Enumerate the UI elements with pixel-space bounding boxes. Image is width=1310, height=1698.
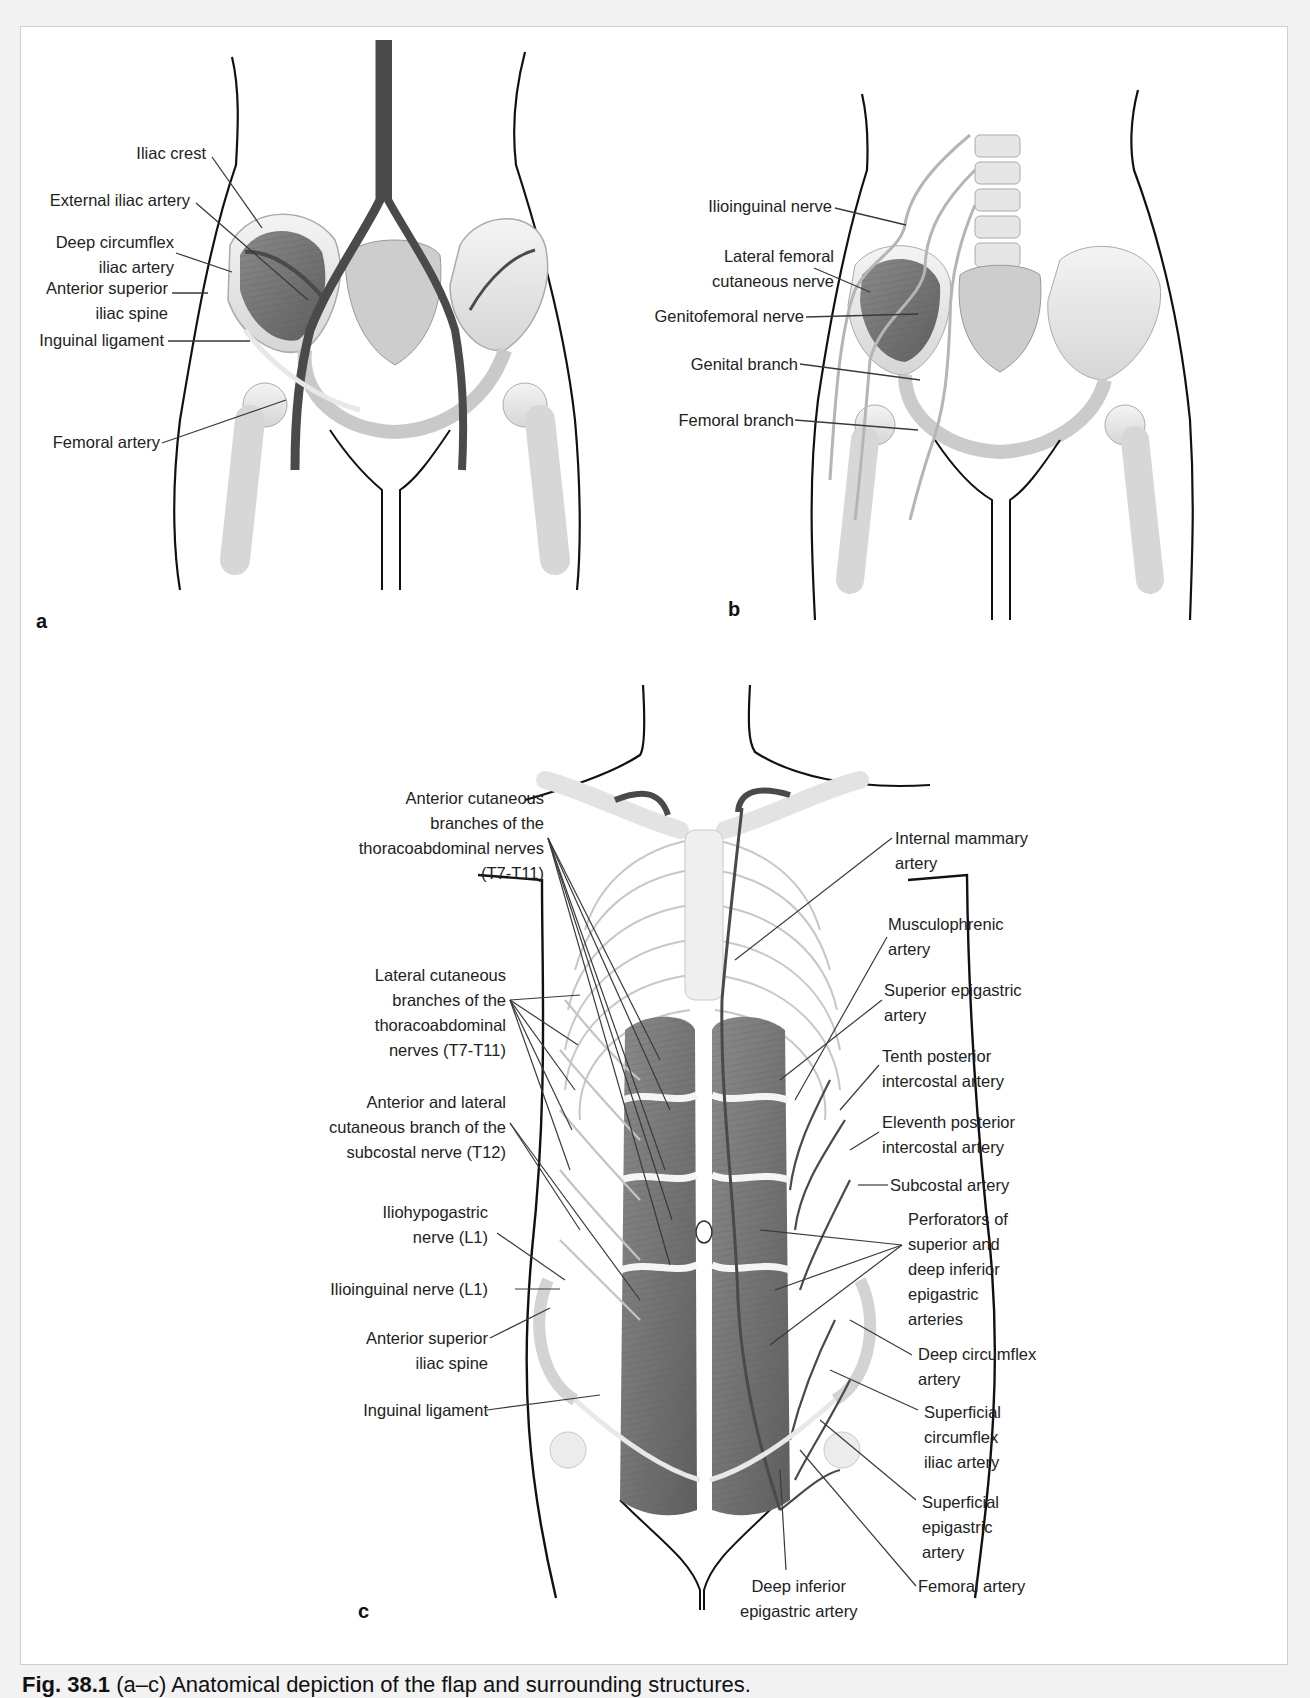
label-superior-epigastric-artery: Superior epigastric artery xyxy=(884,978,1022,1028)
label-iliac-crest: Iliac crest xyxy=(136,141,206,166)
label-inguinal-ligament-c: Inguinal ligament xyxy=(363,1398,488,1423)
label-anterior-cutaneous-branches: Anterior cutaneous branches of the thora… xyxy=(359,786,544,886)
label-perforators-epigastric-arteries: Perforators of superior and deep inferio… xyxy=(908,1207,1008,1332)
figure-caption-label: Fig. 38.1 xyxy=(22,1672,110,1697)
label-musculophrenic-artery: Musculophrenic artery xyxy=(888,912,1004,962)
figure-caption: Fig. 38.1 (a–c) Anatomical depiction of … xyxy=(22,1672,751,1698)
label-internal-mammary-artery: Internal mammary artery xyxy=(895,826,1028,876)
label-iliohypogastric-nerve: Iliohypogastric nerve (L1) xyxy=(383,1200,488,1250)
label-ilioinguinal-nerve: Ilioinguinal nerve xyxy=(708,194,832,219)
label-deep-circumflex-artery: Deep circumflex artery xyxy=(918,1342,1036,1392)
label-inguinal-ligament: Inguinal ligament xyxy=(39,328,164,353)
figure-caption-text: (a–c) Anatomical depiction of the flap a… xyxy=(116,1672,751,1697)
label-superficial-epigastric-artery: Superficial epigastric artery xyxy=(922,1490,999,1565)
label-tenth-posterior-intercostal-artery: Tenth posterior intercostal artery xyxy=(882,1044,1004,1094)
label-genitofemoral-nerve: Genitofemoral nerve xyxy=(655,304,805,329)
panel-letter-a: a xyxy=(36,610,47,633)
label-subcostal-artery: Subcostal artery xyxy=(890,1173,1009,1198)
label-subcostal-nerve-branch: Anterior and lateral cutaneous branch of… xyxy=(329,1090,506,1165)
label-superficial-circumflex-iliac-artery: Superficial circumflex iliac artery xyxy=(924,1400,1001,1475)
label-genital-branch: Genital branch xyxy=(691,352,798,377)
panel-letter-c: c xyxy=(358,1600,369,1623)
label-deep-circumflex-iliac-artery: Deep circumflex iliac artery xyxy=(56,230,174,280)
label-eleventh-posterior-intercostal-artery: Eleventh posterior intercostal artery xyxy=(882,1110,1015,1160)
panel-a-illustration xyxy=(174,40,580,590)
panel-letter-b: b xyxy=(728,598,740,621)
label-anterior-superior-iliac-spine-c: Anterior superior iliac spine xyxy=(366,1326,488,1376)
label-femoral-artery: Femoral artery xyxy=(53,430,160,455)
label-external-iliac-artery: External iliac artery xyxy=(50,188,190,213)
label-femoral-branch: Femoral branch xyxy=(678,408,794,433)
label-femoral-artery-c: Femoral artery xyxy=(918,1574,1025,1599)
label-ilioinguinal-nerve-l1: Ilioinguinal nerve (L1) xyxy=(330,1277,488,1302)
panel-b-illustration xyxy=(812,90,1193,620)
label-lateral-femoral-cutaneous-nerve: Lateral femoral cutaneous nerve xyxy=(712,244,834,294)
label-anterior-superior-iliac-spine: Anterior superior iliac spine xyxy=(46,276,168,326)
label-lateral-cutaneous-branches: Lateral cutaneous branches of the thorac… xyxy=(375,963,506,1063)
label-deep-inferior-epigastric-artery: Deep inferior epigastric artery xyxy=(740,1574,857,1624)
